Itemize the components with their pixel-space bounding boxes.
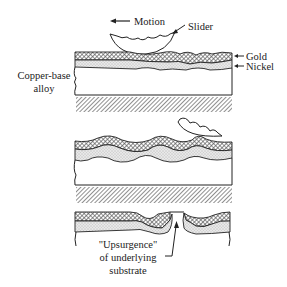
nickel-arrow-icon	[234, 64, 244, 68]
copper-label-line1: Copper-base	[18, 70, 71, 81]
nickel-label: Nickel	[246, 61, 274, 72]
panel-1-intact-coating: Motion Slider Gold Nickel Copper-bas	[18, 16, 275, 112]
motion-arrow-icon	[110, 19, 130, 24]
gold-arrow-icon	[234, 54, 244, 58]
upsurgence-label-line1: "Upsurgence"	[99, 239, 158, 250]
slider-tilted-icon	[178, 118, 222, 136]
slider-icon	[110, 25, 185, 54]
copper-edge-left	[74, 67, 76, 95]
copper-label-line2: alloy	[34, 83, 56, 94]
substrate-hatch	[76, 97, 232, 112]
motion-label: Motion	[134, 16, 166, 27]
upsurgence-label-line3: substrate	[109, 265, 147, 276]
panel-3-upsurgence: "Upsurgence" of underlying substrate	[75, 212, 230, 276]
upsurgence-label-line2: of underlying	[100, 252, 158, 263]
panel-2-worn-coating	[74, 118, 232, 203]
substrate-hatch	[76, 187, 232, 203]
slider-label: Slider	[188, 21, 214, 32]
wear-diagram: Motion Slider Gold Nickel Copper-bas	[0, 0, 287, 287]
